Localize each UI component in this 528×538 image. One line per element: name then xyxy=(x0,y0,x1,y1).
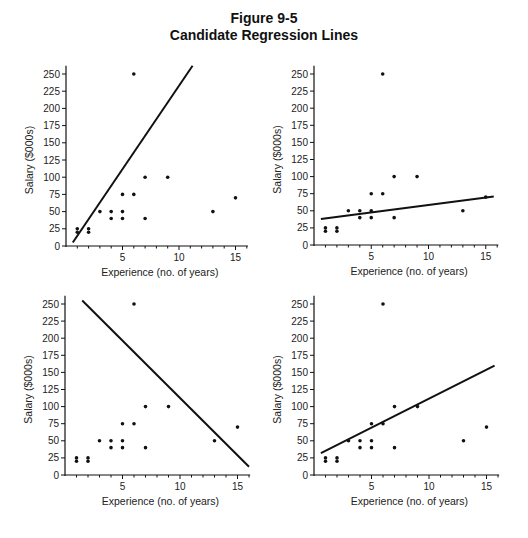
data-point xyxy=(121,210,125,214)
data-point xyxy=(381,302,385,306)
chart-panel-bottom-left: 510150255075100125150175200225250Experie… xyxy=(22,296,250,507)
y-tick-label: 150 xyxy=(291,367,308,378)
y-tick-label: 250 xyxy=(43,69,60,80)
x-axis-label: Experience (no. of years) xyxy=(350,265,467,277)
data-point xyxy=(335,230,339,234)
y-tick-label: 50 xyxy=(48,435,60,446)
data-point xyxy=(335,456,339,460)
data-point xyxy=(121,193,125,197)
data-point xyxy=(335,460,339,464)
data-point xyxy=(98,439,102,443)
x-tick-label: 5 xyxy=(368,251,374,262)
y-tick-label: 175 xyxy=(291,350,308,361)
data-point xyxy=(358,439,362,443)
x-axis-label: Experience (no. of years) xyxy=(351,495,468,507)
data-point xyxy=(86,456,90,460)
data-point xyxy=(358,446,362,450)
data-point xyxy=(370,422,374,426)
y-tick-label: 250 xyxy=(42,299,59,310)
chart-panel-top-left: 510150255075100125150175200225250Experie… xyxy=(23,66,248,278)
data-point xyxy=(370,439,374,443)
y-axis-label: Salary ($000s) xyxy=(23,126,35,194)
data-point xyxy=(485,425,489,429)
data-point xyxy=(86,460,90,464)
chart-grid: 510150255075100125150175200225250Experie… xyxy=(0,0,528,538)
data-point xyxy=(75,460,79,464)
data-point xyxy=(121,439,125,443)
data-point xyxy=(462,439,466,443)
x-tick-label: 10 xyxy=(423,251,435,262)
data-point xyxy=(98,210,102,214)
data-point xyxy=(324,226,328,230)
y-tick-label: 175 xyxy=(42,350,59,361)
y-tick-label: 125 xyxy=(43,155,60,166)
data-point xyxy=(324,456,328,460)
y-tick-label: 25 xyxy=(49,223,61,234)
data-point xyxy=(132,72,136,76)
data-point xyxy=(324,230,328,234)
y-tick-label: 250 xyxy=(291,299,308,310)
y-tick-label: 25 xyxy=(297,452,309,463)
data-point xyxy=(121,422,125,426)
x-tick-label: 5 xyxy=(369,481,375,492)
data-point xyxy=(415,175,419,179)
data-point xyxy=(87,230,91,234)
x-tick-label: 15 xyxy=(481,481,493,492)
x-tick-label: 10 xyxy=(174,481,186,492)
y-tick-label: 100 xyxy=(291,171,308,182)
data-point xyxy=(109,446,113,450)
data-point xyxy=(461,209,465,213)
x-tick-label: 5 xyxy=(120,252,126,263)
x-tick-label: 5 xyxy=(120,481,126,492)
y-tick-label: 125 xyxy=(291,154,308,165)
data-point xyxy=(132,193,136,197)
y-tick-label: 100 xyxy=(43,172,60,183)
y-tick-label: 175 xyxy=(291,120,308,131)
data-point xyxy=(75,456,79,460)
data-point xyxy=(211,210,215,214)
y-tick-label: 75 xyxy=(297,188,309,199)
y-tick-label: 100 xyxy=(291,401,308,412)
data-point xyxy=(347,209,351,213)
y-axis-label: Salary ($000s) xyxy=(22,355,34,423)
regression-line xyxy=(73,66,193,243)
data-point xyxy=(324,460,328,464)
data-point xyxy=(234,196,238,200)
y-tick-label: 75 xyxy=(297,418,309,429)
data-point xyxy=(369,192,373,196)
regression-line xyxy=(82,301,249,467)
data-point xyxy=(143,217,147,221)
data-point xyxy=(393,405,397,409)
data-point xyxy=(121,446,125,450)
y-tick-label: 225 xyxy=(43,86,60,97)
data-point xyxy=(381,72,385,76)
data-point xyxy=(392,216,396,220)
y-tick-label: 25 xyxy=(297,222,309,233)
data-point xyxy=(143,175,147,179)
y-tick-label: 250 xyxy=(291,69,308,80)
x-tick-label: 15 xyxy=(232,481,244,492)
data-point xyxy=(132,422,136,426)
data-point xyxy=(358,209,362,213)
regression-line xyxy=(321,366,495,454)
chart-panel-bottom-right: 510150255075100125150175200225250Experie… xyxy=(271,296,499,507)
data-point xyxy=(109,439,113,443)
data-point xyxy=(335,226,339,230)
y-tick-label: 75 xyxy=(49,189,61,200)
data-point xyxy=(370,446,374,450)
y-tick-label: 200 xyxy=(43,103,60,114)
data-point xyxy=(166,175,170,179)
x-axis-label: Experience (no. of years) xyxy=(101,266,218,278)
x-tick-label: 15 xyxy=(230,252,242,263)
data-point xyxy=(381,192,385,196)
data-point xyxy=(369,216,373,220)
data-point xyxy=(144,446,148,450)
y-tick-label: 200 xyxy=(42,333,59,344)
y-axis-label: Salary ($000s) xyxy=(271,125,283,193)
y-tick-label: 25 xyxy=(48,452,60,463)
x-tick-label: 15 xyxy=(480,251,492,262)
data-point xyxy=(393,446,397,450)
chart-panel-top-right: 510150255075100125150175200225250Experie… xyxy=(271,66,498,277)
y-tick-label: 150 xyxy=(43,137,60,148)
y-axis-label: Salary ($000s) xyxy=(271,355,283,423)
